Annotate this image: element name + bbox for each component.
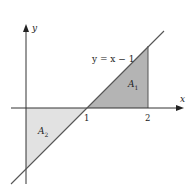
area-diagram: y x y = x − 1 1 2 A1 A2: [0, 0, 192, 192]
tick-label-1: 1: [84, 113, 89, 123]
y-axis-label: y: [31, 23, 38, 33]
y-axis-arrow-icon: [23, 24, 29, 32]
tick-label-2: 2: [145, 113, 150, 123]
x-axis-arrow-icon: [176, 105, 184, 111]
x-axis-label: x: [180, 94, 185, 104]
equation-label: y = x − 1: [91, 54, 134, 64]
